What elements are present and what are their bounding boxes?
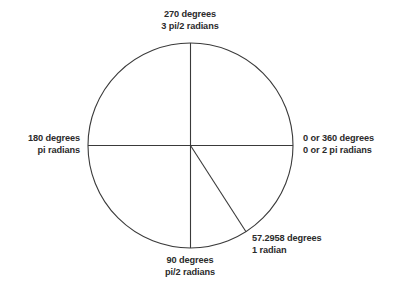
label-one-radian-degrees-value: 57.2958 degrees — [252, 233, 382, 245]
label-0-or-360-degrees-value: 0 or 360 degrees — [303, 133, 396, 145]
label-270-degrees-value: 270 degrees — [90, 9, 290, 21]
label-0-or-360-degrees: 0 or 360 degrees 0 or 2 pi radians — [303, 133, 396, 156]
label-one-radian-radians-value: 1 radian — [252, 245, 382, 257]
label-180-degrees-value: 180 degrees — [0, 133, 80, 145]
label-270-radians-value: 3 pi/2 radians — [90, 21, 290, 33]
label-90-degrees-value: 90 degrees — [90, 255, 290, 267]
label-180-radians-value: pi radians — [0, 145, 80, 157]
label-90-radians-value: pi/2 radians — [90, 267, 290, 279]
one-radian-radius-line — [191, 146, 247, 232]
label-180-degrees: 180 degrees pi radians — [0, 133, 80, 156]
label-90-degrees: 90 degrees pi/2 radians — [90, 255, 290, 278]
unit-circle-diagram: 270 degrees 3 pi/2 radians 180 degrees p… — [0, 0, 396, 293]
label-one-radian: 57.2958 degrees 1 radian — [252, 233, 382, 256]
label-270-degrees: 270 degrees 3 pi/2 radians — [90, 9, 290, 32]
label-0-or-360-radians-value: 0 or 2 pi radians — [303, 145, 396, 157]
